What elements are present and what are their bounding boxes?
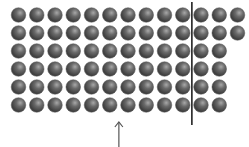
- dot: [121, 62, 136, 77]
- dot: [102, 62, 117, 77]
- dot: [11, 98, 26, 113]
- dot: [48, 80, 63, 95]
- dot: [194, 80, 209, 95]
- dot: [66, 98, 81, 113]
- dot: [102, 8, 117, 23]
- dot: [11, 80, 26, 95]
- dot: [66, 44, 81, 59]
- dot: [84, 8, 99, 23]
- dot: [29, 62, 44, 77]
- dot: [29, 80, 44, 95]
- dot: [139, 8, 154, 23]
- dot: [175, 26, 190, 41]
- dot: [139, 98, 154, 113]
- dot: [194, 44, 209, 59]
- dot: [121, 98, 136, 113]
- dot: [212, 62, 227, 77]
- dot-array-diagram: [0, 0, 249, 147]
- dot: [157, 8, 172, 23]
- dot: [230, 8, 245, 23]
- dot: [194, 62, 209, 77]
- dot: [29, 98, 44, 113]
- dot: [102, 44, 117, 59]
- dot: [157, 98, 172, 113]
- dot: [29, 8, 44, 23]
- dot: [102, 80, 117, 95]
- dot: [29, 26, 44, 41]
- dot: [121, 80, 136, 95]
- dot: [66, 8, 81, 23]
- dot: [11, 8, 26, 23]
- dot: [157, 26, 172, 41]
- dot: [175, 8, 190, 23]
- dot: [48, 62, 63, 77]
- dot: [157, 44, 172, 59]
- dot: [66, 80, 81, 95]
- dot: [175, 62, 190, 77]
- dot: [48, 8, 63, 23]
- dot: [66, 26, 81, 41]
- dot: [84, 26, 99, 41]
- dot: [48, 98, 63, 113]
- dot: [121, 8, 136, 23]
- dot: [84, 80, 99, 95]
- dot: [230, 26, 245, 41]
- dot: [194, 98, 209, 113]
- dot: [212, 44, 227, 59]
- dot: [157, 62, 172, 77]
- dot: [48, 26, 63, 41]
- dot: [102, 98, 117, 113]
- dot: [11, 26, 26, 41]
- arrow-up-icon: [115, 122, 123, 147]
- dot: [29, 44, 44, 59]
- dot: [139, 26, 154, 41]
- dot: [121, 44, 136, 59]
- dot: [175, 80, 190, 95]
- dot: [139, 44, 154, 59]
- dot: [11, 62, 26, 77]
- dot: [194, 26, 209, 41]
- dot: [48, 44, 63, 59]
- dot: [212, 80, 227, 95]
- dot: [175, 98, 190, 113]
- dot: [121, 26, 136, 41]
- dot: [212, 98, 227, 113]
- dot: [175, 44, 190, 59]
- dot: [157, 80, 172, 95]
- dot: [212, 8, 227, 23]
- dot: [102, 26, 117, 41]
- dot: [139, 62, 154, 77]
- dot: [66, 62, 81, 77]
- dot: [84, 62, 99, 77]
- dot: [11, 44, 26, 59]
- dot: [84, 44, 99, 59]
- dot: [84, 98, 99, 113]
- dot-grid: [11, 8, 245, 113]
- dot: [212, 26, 227, 41]
- dot: [194, 8, 209, 23]
- dot: [139, 80, 154, 95]
